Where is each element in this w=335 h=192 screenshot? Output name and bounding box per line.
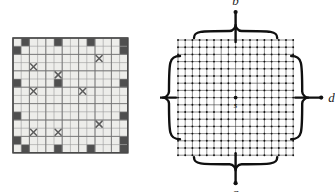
terminal-node-d [319, 96, 323, 100]
lattice-node [256, 154, 258, 156]
lattice-node [227, 82, 229, 84]
lattice-node [242, 61, 244, 63]
lattice-group: sbdac [160, 0, 335, 192]
dark-cell [13, 112, 21, 120]
right-lattice-figure: sbdac [160, 0, 335, 192]
lattice-node [227, 89, 229, 91]
lattice-node [199, 154, 201, 156]
lattice-node [256, 111, 258, 113]
dark-cell [87, 145, 95, 153]
lattice-node [206, 75, 208, 77]
lattice-node [213, 125, 215, 127]
lattice-node [256, 89, 258, 91]
lattice-node [235, 133, 237, 135]
left-grid-figure [0, 0, 160, 192]
lattice-node [184, 61, 186, 63]
lattice-node [242, 68, 244, 70]
lattice-node [263, 154, 265, 156]
dark-cell [120, 38, 128, 46]
lattice-node [292, 97, 294, 99]
lattice-node [278, 154, 280, 156]
lattice-node [285, 53, 287, 55]
lattice-node [206, 68, 208, 70]
terminal-label-d: d [328, 90, 335, 105]
lattice-node [263, 125, 265, 127]
lattice-node [242, 39, 244, 41]
terminal-node-b [234, 10, 238, 14]
lattice-node [249, 53, 251, 55]
lattice-node [271, 111, 273, 113]
lattice-node [213, 53, 215, 55]
lattice-node [292, 147, 294, 149]
dark-cell [21, 145, 29, 153]
lattice-node [184, 68, 186, 70]
lattice-node [191, 53, 193, 55]
lattice-node [184, 118, 186, 120]
lattice-node [184, 125, 186, 127]
lattice-node [263, 39, 265, 41]
lattice-node [263, 68, 265, 70]
lattice-node [285, 154, 287, 156]
lattice-node [285, 97, 287, 99]
lattice-node [191, 118, 193, 120]
lattice-node [242, 111, 244, 113]
lattice-node [278, 53, 280, 55]
lattice-node [206, 118, 208, 120]
lattice-node [213, 97, 215, 99]
lattice-node [278, 147, 280, 149]
lattice-node [263, 82, 265, 84]
lattice-node [191, 140, 193, 142]
lattice-node [199, 104, 201, 106]
lattice-node [242, 82, 244, 84]
lattice-node [213, 140, 215, 142]
lattice-node [235, 111, 237, 113]
lattice-node [227, 118, 229, 120]
lattice-node [292, 154, 294, 156]
lattice-node [271, 125, 273, 127]
lattice-node [199, 89, 201, 91]
lattice-node [206, 53, 208, 55]
lattice-node [227, 104, 229, 106]
lattice-node [206, 147, 208, 149]
lattice-node [271, 46, 273, 48]
lattice-node [278, 133, 280, 135]
lattice-node [256, 46, 258, 48]
lattice-node [292, 111, 294, 113]
lattice-node [292, 125, 294, 127]
lattice-node [278, 46, 280, 48]
lattice-node [256, 53, 258, 55]
lattice-node [191, 133, 193, 135]
lattice-node [285, 39, 287, 41]
lattice-node [271, 53, 273, 55]
lattice-node [206, 125, 208, 127]
lattice-node [271, 82, 273, 84]
lattice-node [184, 133, 186, 135]
lattice-node [213, 68, 215, 70]
lattice-node [285, 111, 287, 113]
lattice-node [292, 133, 294, 135]
lattice-node [177, 46, 179, 48]
lattice-node [285, 89, 287, 91]
lattice-node [227, 140, 229, 142]
dark-cell [54, 79, 62, 87]
lattice-node [184, 147, 186, 149]
lattice-node [184, 75, 186, 77]
lattice-node [235, 147, 237, 149]
lattice-node [177, 104, 179, 106]
lattice-node [263, 147, 265, 149]
lattice-node [278, 118, 280, 120]
lattice-node [177, 89, 179, 91]
lattice-node [271, 118, 273, 120]
terminal-label-b: b [232, 0, 239, 8]
lattice-node [249, 140, 251, 142]
lattice-node [256, 118, 258, 120]
lattice-node [256, 140, 258, 142]
lattice-node [285, 46, 287, 48]
lattice-node [249, 68, 251, 70]
lattice-node [263, 46, 265, 48]
lattice-node [271, 140, 273, 142]
left-grid-group [13, 38, 128, 153]
lattice-node [177, 68, 179, 70]
lattice-node [206, 82, 208, 84]
lattice-node [191, 46, 193, 48]
